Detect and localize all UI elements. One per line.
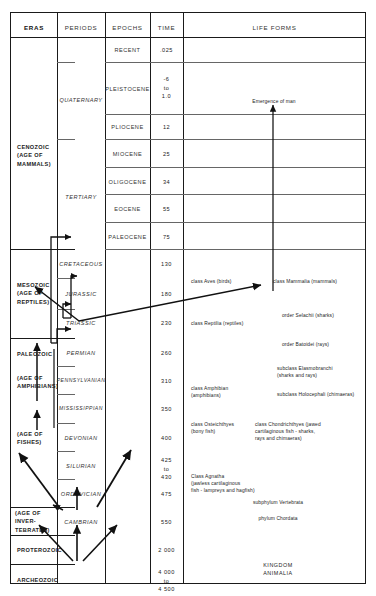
- label-order-batoidei: order Batoidei (rays): [282, 342, 367, 349]
- label-class-mammalia: class Mammalia (mammals): [273, 279, 368, 286]
- row-rule-silurian: [57, 479, 75, 480]
- row-rule-eocene: [105, 222, 365, 223]
- era-mesozoic: MESOZOIC (AGE OF REPTILES): [17, 281, 59, 306]
- row-rule-quaternary-bottom: [57, 139, 75, 140]
- period-ordovician: ORDOVICIAN: [57, 490, 105, 499]
- label-class-reptilia: class Reptilia (reptiles): [191, 321, 276, 328]
- period-jurassic: JURASSIC: [57, 290, 105, 299]
- row-rule-jurassic: [57, 309, 75, 310]
- period-cambrian: CAMBRIAN: [57, 518, 105, 527]
- row-rule-cambrian-end: [11, 535, 75, 536]
- time-cretaceous: 130: [150, 260, 183, 269]
- label-class-chondrichthyes: class Chondrichthyes (jawed cartilaginou…: [255, 422, 355, 443]
- label-class-aves: class Aves (birds): [191, 279, 271, 286]
- label-subphylum-vertebrata: subphylum Vertebrata: [233, 500, 323, 507]
- epoch-recent: RECENT: [105, 46, 150, 55]
- era-paleozoic: PALEOZOIC: [17, 350, 59, 358]
- period-tertiary: TERTIARY: [57, 193, 105, 202]
- time-silurian: 425 to 430: [150, 456, 183, 482]
- arrow-animalia-branch-right: [83, 525, 117, 561]
- period-triassic: TRIASSIC: [57, 319, 105, 328]
- era-rule-paleozoic: [11, 338, 55, 339]
- period-permian: PERMIAN: [57, 349, 105, 358]
- row-rule-paleocene: [105, 249, 365, 250]
- header-eras: ERAS: [11, 24, 57, 31]
- label-class-osteichthyes: class Osteichthyes (bony fish): [191, 422, 261, 436]
- row-rule-paleozoic-mid: [11, 507, 75, 508]
- column-divider-periods: [105, 13, 106, 583]
- time-cambrian: 550: [150, 518, 183, 527]
- geological-time-scale-table: ERAS PERIODS EPOCHS TIME LIFE FORMS CENO…: [10, 12, 366, 584]
- period-pennsylvanian: PENNSYLVANIAN: [56, 377, 106, 385]
- row-rule-oligocene: [105, 194, 365, 195]
- row-rule-miocene: [105, 167, 365, 168]
- label-subclass-elasmobranchi: subclass Elasmobranchi (sharks and rays): [277, 366, 367, 380]
- time-eocene: 55: [150, 205, 183, 214]
- time-jurassic: 180: [150, 290, 183, 299]
- arrow-to-elasmobranchi: [57, 329, 71, 343]
- period-devonian: DEVONIAN: [57, 434, 105, 443]
- epoch-paleocene: PALEOCENE: [105, 233, 150, 242]
- time-paleocene: 75: [150, 233, 183, 242]
- row-rule-permian: [57, 366, 75, 367]
- arrow-elasmobranchi-to-batoidei: [63, 304, 71, 318]
- column-divider-time: [183, 13, 184, 583]
- row-rule-pliocene: [105, 139, 365, 140]
- arrow-vertebrata-to-osteichthyes: [19, 453, 59, 507]
- time-recent: .025: [150, 46, 183, 55]
- header-time: TIME: [150, 24, 183, 31]
- time-proterozoic: 2 000: [150, 546, 183, 555]
- header-life-forms: LIFE FORMS: [183, 24, 366, 31]
- era-cenozoic: CENOZOIC (AGE OF MAMMALS): [17, 143, 59, 168]
- label-kingdom-animalia: KINGDOM ANIMALIA: [233, 561, 323, 577]
- era-age-of-invertebrates: (AGE OF INVER- TEBRATES): [15, 509, 61, 534]
- time-permian: 260: [150, 349, 183, 358]
- time-pleistocene: -6 to 1.0: [150, 75, 183, 101]
- epoch-pliocene: PLIOCENE: [105, 123, 150, 132]
- row-rule-quaternary-top: [57, 62, 75, 63]
- epoch-pleistocene: PLEISTOCENE: [105, 85, 150, 94]
- epoch-eocene: EOCENE: [105, 205, 150, 214]
- row-rule-pleistocene: [105, 114, 365, 115]
- header-epochs: EPOCHS: [105, 24, 150, 31]
- label-phylum-chordata: phylum Chordata: [233, 516, 323, 523]
- period-quaternary: QUATERNARY: [57, 96, 105, 105]
- label-class-amphibian: class Amphibian (amphibians): [191, 386, 251, 400]
- row-rule-proterozoic-end: [11, 564, 75, 565]
- time-devonian: 400: [150, 434, 183, 443]
- epoch-oligocene: OLIGOCENE: [105, 178, 150, 187]
- era-age-of-amphibians: (AGE OF AMPHIBIANS): [17, 374, 59, 391]
- row-rule-devonian: [57, 451, 75, 452]
- row-rule-cretaceous: [57, 278, 75, 279]
- header-periods: PERIODS: [57, 24, 105, 31]
- period-cretaceous: CRETACEOUS: [57, 260, 105, 269]
- epoch-miocene: MIOCENE: [105, 150, 150, 159]
- time-archeozoic: 4 000 to 4 500: [150, 568, 183, 594]
- label-class-agnatha: Class Agnatha (jawless cartilaginous fis…: [191, 474, 271, 495]
- time-oligocene: 34: [150, 178, 183, 187]
- era-age-of-fishes: (AGE OF FISHES): [17, 430, 59, 447]
- era-archeozoic: ARCHEOZOIC: [17, 576, 61, 584]
- period-silurian: SILURIAN: [57, 462, 105, 471]
- header-rule: [11, 37, 365, 38]
- time-pennsylvanian: 310: [150, 377, 183, 386]
- era-proterozoic: PROTEROZOIC: [17, 546, 61, 554]
- label-order-selachii: order Selachii (sharks): [282, 313, 367, 320]
- row-rule-cenozoic-end: [11, 249, 75, 250]
- row-rule-recent: [105, 62, 365, 63]
- label-subclass-holocephali: subclass Holocephali (chimaeras): [277, 392, 372, 399]
- row-rule-pennsylvanian: [57, 394, 75, 395]
- time-triassic: 230: [150, 319, 183, 328]
- time-miocene: 25: [150, 150, 183, 159]
- time-pliocene: 12: [150, 123, 183, 132]
- row-rule-mississippian: [57, 423, 75, 424]
- time-ordovician: 475: [150, 490, 183, 499]
- period-mississippian: MISSISSIPPIAN: [56, 405, 106, 413]
- time-mississippian: 350: [150, 405, 183, 414]
- label-emergence-of-man: Emergence of man: [229, 99, 319, 106]
